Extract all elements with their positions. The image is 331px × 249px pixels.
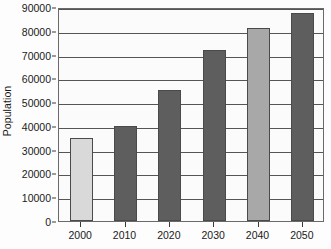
y-tick-label: 80000	[22, 26, 51, 38]
population-bar-chart: Population 01000020000300004000050000600…	[0, 0, 331, 249]
y-tick-label: 90000	[22, 2, 51, 14]
x-tick-mark	[302, 222, 303, 227]
y-tick-mark	[52, 55, 56, 56]
x-tick-mark	[125, 222, 126, 227]
bar-2050	[291, 13, 314, 221]
x-tick-label: 2030	[201, 229, 224, 241]
x-axis-tick-labels: 200020102020203020402050	[58, 229, 324, 247]
x-tick-mark	[258, 222, 259, 227]
y-tick-mark	[52, 126, 56, 127]
y-tick-mark	[52, 150, 56, 151]
x-tick-mark	[80, 222, 81, 227]
bars-layer	[59, 9, 323, 221]
y-tick-mark	[52, 31, 56, 32]
y-axis-title-label: Population	[1, 86, 13, 137]
y-tick-mark	[52, 8, 56, 9]
x-tick-label: 2020	[157, 229, 180, 241]
bar-2000	[70, 138, 93, 221]
x-tick-mark	[169, 222, 170, 227]
y-axis-title: Population	[0, 0, 14, 222]
y-tick-label: 20000	[22, 168, 51, 180]
x-tick-label: 2050	[290, 229, 313, 241]
y-tick-label: 60000	[22, 73, 51, 85]
y-tick-mark	[52, 198, 56, 199]
y-tick-label: 70000	[22, 50, 51, 62]
y-tick-label: 10000	[22, 192, 51, 204]
bar-2020	[158, 90, 181, 221]
y-tick-mark	[52, 174, 56, 175]
y-tick-label: 50000	[22, 97, 51, 109]
y-axis-tick-labels: 0100002000030000400005000060000700008000…	[14, 0, 56, 231]
y-tick-mark	[52, 103, 56, 104]
bar-2030	[203, 50, 226, 221]
y-tick-mark	[52, 79, 56, 80]
y-tick-label: 0	[45, 216, 51, 228]
x-axis-tick-marks	[58, 222, 324, 228]
x-tick-label: 2040	[246, 229, 269, 241]
plot-area	[58, 8, 324, 222]
x-tick-label: 2010	[113, 229, 136, 241]
y-tick-label: 40000	[22, 121, 51, 133]
x-tick-label: 2000	[68, 229, 91, 241]
bar-2040	[247, 28, 270, 221]
bar-2010	[114, 126, 137, 221]
y-tick-label: 30000	[22, 145, 51, 157]
y-tick-mark	[52, 222, 56, 223]
x-tick-mark	[213, 222, 214, 227]
